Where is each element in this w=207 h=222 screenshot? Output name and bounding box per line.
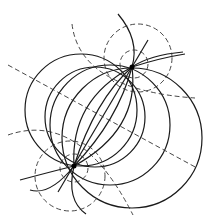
solid-circle-5 (30, 14, 134, 191)
solid-circle-1 (25, 54, 137, 166)
bipolar-circles-diagram (0, 0, 207, 222)
focal-axis (58, 40, 148, 192)
lower-focus-point (72, 164, 77, 169)
radical-axis (8, 65, 197, 168)
apollonian-lower-large (35, 141, 105, 211)
solid-circle-family (20, 14, 202, 214)
upper-focus-point (130, 65, 135, 70)
dashed-circle-family (8, 24, 197, 215)
